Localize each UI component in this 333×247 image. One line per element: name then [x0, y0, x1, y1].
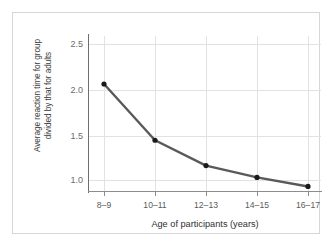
plot-area — [88, 36, 321, 191]
y-axis-title: Average reaction time for group divided … — [32, 21, 53, 171]
y-axis-line — [88, 34, 89, 193]
x-tick-mark — [257, 192, 258, 196]
y-tick-label: 2.5 — [57, 39, 83, 49]
chart-figure-frame: Average reaction time for group divided … — [12, 12, 320, 234]
x-axis-title: Age of participants (years) — [88, 219, 322, 229]
gridline-horizontal — [88, 180, 321, 181]
gridline-horizontal — [88, 44, 321, 45]
gridline-vertical — [308, 36, 309, 191]
y-axis-tick-labels: 2.5 2.0 1.5 1.0 — [55, 13, 83, 247]
y-tick-label: 1.0 — [57, 175, 83, 185]
gridline-horizontal — [88, 90, 321, 91]
y-tick-label: 2.0 — [57, 85, 83, 95]
x-tick-mark — [104, 192, 105, 196]
x-tick-label: 16–17 — [278, 200, 333, 210]
gridline-vertical — [206, 36, 207, 191]
x-tick-mark — [206, 192, 207, 196]
gridline-vertical — [257, 36, 258, 191]
gridline-horizontal — [88, 136, 321, 137]
x-axis-line — [88, 191, 322, 192]
y-axis-title-line-2: divided by that for adults — [42, 21, 53, 171]
y-axis-title-line-1: Average reaction time for group — [32, 21, 43, 171]
gridline-vertical — [155, 36, 156, 191]
x-tick-mark — [308, 192, 309, 196]
x-tick-mark — [155, 192, 156, 196]
gridline-vertical — [104, 36, 105, 191]
y-tick-label: 1.5 — [57, 131, 83, 141]
